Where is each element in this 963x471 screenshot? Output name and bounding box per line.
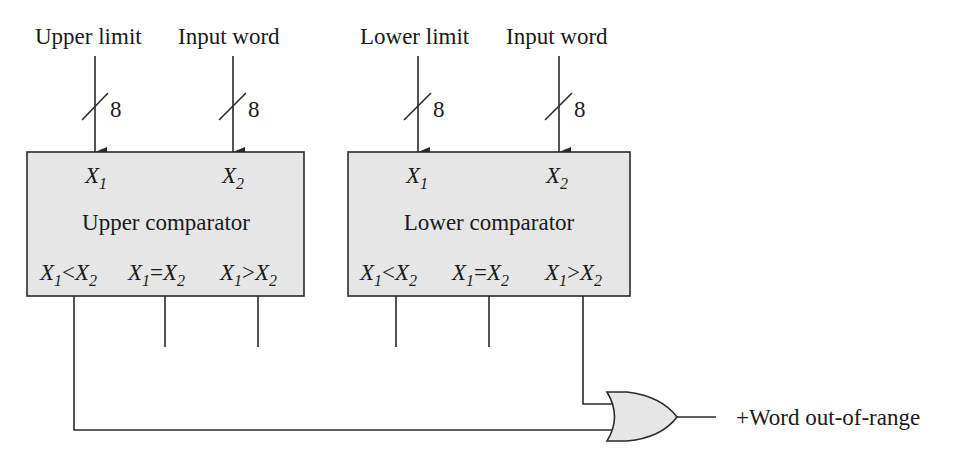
bus-width-label: 8 xyxy=(574,97,586,122)
output-less-than: X1<X2 xyxy=(359,260,417,289)
output-equal: X1=X2 xyxy=(451,260,509,289)
output-less-than: X1<X2 xyxy=(39,260,97,289)
bus-width-label: 8 xyxy=(110,97,122,122)
bus-width-label: 8 xyxy=(433,97,445,122)
comparator-diagram: Upper limit Input word Lower limit Input… xyxy=(0,0,963,471)
input-word-bus-2: 8 xyxy=(545,56,586,152)
output-greater-than: X1>X2 xyxy=(544,260,602,289)
upper-comparator: X1 X2 Upper comparator X1<X2 X1=X2 X1>X2 xyxy=(27,152,304,296)
or-gate xyxy=(607,392,716,441)
output-label: +Word out-of-range xyxy=(736,405,920,430)
lower-comparator: X1 X2 Lower comparator X1<X2 X1=X2 X1>X2 xyxy=(348,152,630,296)
input-word-label-1: Input word xyxy=(178,24,280,49)
input-word-label-2: Input word xyxy=(506,24,608,49)
lower-comparator-title: Lower comparator xyxy=(404,210,575,235)
input-word-bus-1: 8 xyxy=(219,56,260,152)
output-wires xyxy=(74,296,613,430)
lower-limit-bus: 8 xyxy=(404,56,445,152)
upper-limit-label: Upper limit xyxy=(35,24,142,49)
upper-comparator-title: Upper comparator xyxy=(82,210,250,235)
bus-width-label: 8 xyxy=(248,97,260,122)
output-greater-than: X1>X2 xyxy=(219,260,277,289)
output-equal: X1=X2 xyxy=(127,260,185,289)
upper-limit-bus: 8 xyxy=(82,56,122,152)
lower-limit-label: Lower limit xyxy=(360,24,470,49)
